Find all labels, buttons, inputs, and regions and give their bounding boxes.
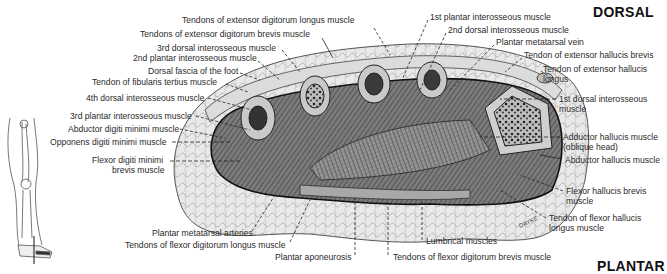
metatarsal-5 [241, 96, 275, 140]
label-flexor-hallucis-longus-tendon-line1: Tendon of flexor hallucis [549, 213, 641, 223]
label-fibularis-tertius-tendon: Tendon of fibularis tertius muscle [92, 77, 217, 87]
plantar-orientation-label: PLANTAR [597, 258, 665, 274]
leg-orientation-figure [8, 118, 52, 264]
label-1st-plantar-interosseous: 1st plantar interosseous muscle [430, 12, 551, 22]
dorsal-orientation-label: DORSAL [593, 4, 654, 20]
label-plantar-aponeurosis: Plantar aponeurosis [275, 252, 351, 262]
label-flexor-digitorum-brevis-tendons: Tendons of flexor digitorum brevis muscl… [393, 252, 551, 262]
label-adductor-hallucis-line1: Adductor hallucis muscle [563, 132, 658, 142]
label-abductor-hallucis: Abductor hallucis muscle [565, 155, 660, 165]
label-opponens-digiti-minimi: Opponens digiti minimi muscle [50, 137, 167, 147]
label-flexor-digiti-minimi-brevis-line1: Flexor digiti minimi [92, 155, 163, 165]
label-flexor-digiti-minimi-brevis-line2: brevis muscle [112, 165, 165, 175]
label-extensor-hallucis-longus-tendon-line2: longus [543, 74, 568, 84]
metatarsal-2 [417, 62, 447, 98]
label-extensor-hallucis-longus-tendon-line1: Tendon of extensor hallucis [543, 64, 647, 74]
label-1st-dorsal-interosseous-line2: muscle [559, 104, 586, 114]
label-4th-dorsal-interosseous: 4th dorsal interosseous muscle [86, 93, 204, 103]
label-flexor-hallucis-brevis-line2: muscle [566, 196, 593, 206]
label-dorsal-fascia: Dorsal fascia of the foot [148, 66, 238, 76]
label-extensor-hallucis-brevis-tendon: Tendon of extensor hallucis brevis [524, 50, 653, 60]
label-flexor-digitorum-longus-tendons: Tendons of flexor digitorum longus muscl… [125, 240, 286, 250]
metatarsal-3 [358, 65, 390, 103]
label-3rd-plantar-interosseous: 3rd plantar interosseous muscle [70, 111, 192, 121]
metatarsal-4 [300, 76, 330, 116]
label-3rd-dorsal-interosseous: 3rd dorsal interosseous muscle [157, 43, 276, 53]
label-abductor-digiti-minimi: Abductor digiti minimi muscle [68, 124, 179, 134]
label-1st-dorsal-interosseous-line1: 1st dorsal interosseous [559, 94, 647, 104]
label-extensor-digitorum-longus-tendons: Tendons of extensor digitorum longus mus… [182, 15, 354, 25]
label-flexor-hallucis-longus-tendon-line2: longus muscle [549, 223, 604, 233]
label-2nd-dorsal-interosseous: 2nd dorsal interosseous muscle [448, 25, 569, 35]
label-lumbrical-muscles: Lumbrical muscles [426, 236, 497, 246]
label-adductor-hallucis-line2: (oblique head) [563, 142, 618, 152]
label-plantar-metatarsal-arteries: Plantar metatarsal arteries [152, 228, 253, 238]
label-flexor-hallucis-brevis-line1: Flexor hallucis brevis [566, 186, 646, 196]
label-2nd-plantar-interosseous: 2nd plantar interosseous muscle [133, 53, 257, 63]
label-extensor-digitorum-brevis-tendons: Tendons of extensor digitorum brevis mus… [140, 29, 310, 39]
label-plantar-metatarsal-vein: Plantar metatarsal vein [496, 37, 584, 47]
